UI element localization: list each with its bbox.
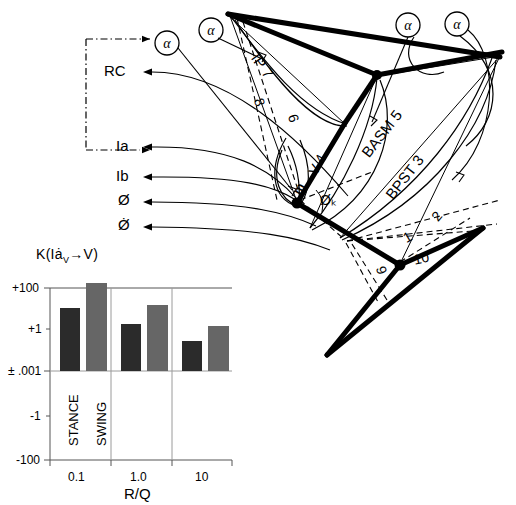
- label-phi: Ø: [118, 191, 130, 208]
- label-ib: Ib: [116, 167, 129, 184]
- xtick-label-0: 0.1: [68, 470, 85, 484]
- bar-swing-1: [147, 305, 168, 371]
- label-path-10: 10: [412, 249, 431, 268]
- curve-phi: [152, 202, 316, 226]
- bracket-arrowheads: [142, 36, 150, 153]
- ytick-label-0: +100: [12, 281, 39, 295]
- femur: [377, 52, 502, 75]
- bar-swing-2: [208, 326, 229, 371]
- alpha-label-3: α: [404, 18, 412, 33]
- dash-dot-bracket: [86, 39, 150, 150]
- bar-chart: K(IȧV→V): [0, 244, 250, 505]
- ankle-joint: [395, 260, 406, 271]
- label-phi-k: Øₖ: [320, 192, 337, 208]
- ytick-label-1: +1: [28, 322, 42, 336]
- alpha-leader-lines: [178, 30, 490, 190]
- label-rc: RC: [104, 62, 126, 79]
- shank: [297, 203, 400, 265]
- x-axis-title: R/Q: [124, 485, 151, 502]
- xtick-label-1: 1.0: [130, 470, 147, 484]
- series-label-swing: SWING: [94, 402, 109, 446]
- y-ticks: [44, 288, 50, 460]
- figure-root: α α α α: [0, 0, 516, 505]
- alpha-label-2: α: [207, 23, 215, 38]
- bar-stance-1: [121, 324, 141, 371]
- toe: [327, 265, 400, 355]
- ytick-label-2: ± .001: [8, 364, 41, 378]
- ytick-label-3: -1: [30, 409, 41, 423]
- ytick-label-4: -100: [16, 453, 40, 467]
- bar-stance-0: [60, 308, 80, 371]
- bar-swing-0: [86, 283, 107, 371]
- foot-lower: [327, 228, 483, 355]
- x-ticks: [50, 460, 232, 466]
- xtick-label-2: 10: [195, 470, 208, 484]
- label-phi-dot: Ø̇: [118, 216, 130, 233]
- thigh-upper: [345, 75, 377, 123]
- dash-6: [243, 22, 300, 196]
- alpha-label-4: α: [453, 17, 461, 32]
- bar-stance-2: [182, 341, 202, 371]
- series-label-stance: STANCE: [66, 394, 81, 446]
- alpha-label-1: α: [163, 36, 171, 51]
- label-ia: Ia: [116, 137, 129, 154]
